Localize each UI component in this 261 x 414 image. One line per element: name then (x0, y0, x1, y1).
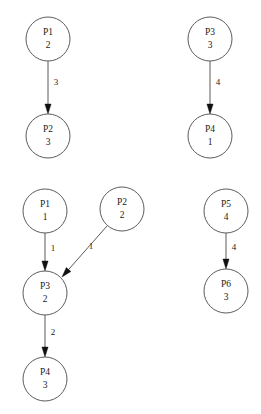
node-circle[interactable] (188, 17, 232, 61)
node-value-label: 2 (46, 40, 51, 50)
node-name-label: P1 (43, 27, 53, 37)
node-value-label: 3 (224, 292, 229, 302)
node-bl-p1[interactable]: P11 (23, 189, 67, 233)
node-name-label: P5 (221, 199, 231, 209)
arrowhead-icon (45, 104, 51, 114)
node-br-p6[interactable]: P63 (204, 269, 248, 313)
node-value-label: 3 (208, 40, 213, 50)
node-circle[interactable] (204, 269, 248, 313)
graph-top-right: 4P33P41 (188, 17, 232, 158)
node-circle[interactable] (188, 114, 232, 158)
edge-p3-to-p4: 4 (207, 61, 221, 114)
node-name-label: P4 (40, 367, 50, 377)
edge-weight-label: 4 (216, 77, 221, 87)
edge-p1-to-p2: 3 (45, 61, 59, 114)
node-circle[interactable] (100, 187, 144, 231)
node-value-label: 3 (46, 137, 51, 147)
node-bl-p2[interactable]: P22 (100, 187, 144, 231)
node-name-label: P2 (117, 197, 127, 207)
node-value-label: 4 (224, 212, 229, 222)
edge-p5-to-p6: 4 (223, 233, 237, 269)
graph-canvas: 3P12P234P33P41112P11P22P32P434P54P63 (0, 0, 261, 414)
node-tr-p3[interactable]: P33 (188, 17, 232, 61)
arrowhead-icon (207, 104, 213, 114)
edge-weight-label: 1 (89, 241, 94, 251)
node-name-label: P1 (40, 199, 50, 209)
arrowhead-icon (42, 261, 48, 271)
node-value-label: 2 (43, 294, 48, 304)
node-name-label: P6 (221, 279, 231, 289)
edge-line (68, 226, 107, 271)
edge-weight-label: 1 (51, 243, 56, 253)
arrowhead-icon (223, 259, 229, 269)
edge-p3-to-p4: 2 (42, 315, 55, 357)
node-name-label: P3 (40, 281, 50, 291)
node-name-label: P3 (205, 27, 215, 37)
node-value-label: 2 (120, 210, 125, 220)
node-value-label: 1 (43, 212, 48, 222)
node-name-label: P2 (43, 124, 53, 134)
arrowhead-icon (42, 347, 48, 357)
node-circle[interactable] (26, 114, 70, 158)
graph-diagram-svg: 3P12P234P33P41112P11P22P32P434P54P63 (0, 0, 261, 414)
edge-weight-label: 4 (232, 242, 237, 252)
node-tl-p1[interactable]: P12 (26, 17, 70, 61)
graph-bottom-right: 4P54P63 (204, 189, 248, 313)
edge-weight-label: 2 (51, 327, 56, 337)
node-br-p5[interactable]: P54 (204, 189, 248, 233)
node-value-label: 3 (43, 380, 48, 390)
graph-top-left: 3P12P23 (26, 17, 70, 158)
graph-bottom-left: 112P11P22P32P43 (23, 187, 144, 401)
node-circle[interactable] (23, 357, 67, 401)
edge-p1-to-p3: 1 (42, 233, 55, 271)
node-bl-p4[interactable]: P43 (23, 357, 67, 401)
node-circle[interactable] (23, 189, 67, 233)
node-tr-p4[interactable]: P41 (188, 114, 232, 158)
edge-weight-label: 3 (54, 77, 59, 87)
node-value-label: 1 (208, 137, 213, 147)
node-circle[interactable] (26, 17, 70, 61)
edge-p2-to-p3: 1 (62, 226, 107, 277)
node-circle[interactable] (23, 271, 67, 315)
node-name-label: P4 (205, 124, 215, 134)
node-tl-p2[interactable]: P23 (26, 114, 70, 158)
node-circle[interactable] (204, 189, 248, 233)
node-bl-p3[interactable]: P32 (23, 271, 67, 315)
